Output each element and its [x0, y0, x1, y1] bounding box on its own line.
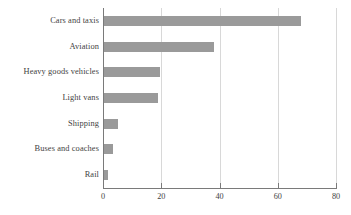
bar [103, 42, 214, 52]
x-tick-label: 60 [263, 192, 293, 202]
category-label: Rail [0, 170, 99, 180]
gridline [336, 8, 337, 188]
x-tick-label: 0 [88, 192, 118, 202]
x-tick-mark [278, 183, 279, 189]
bar [103, 119, 118, 129]
category-label: Cars and taxis [0, 16, 99, 26]
category-label: Light vans [0, 93, 99, 103]
bar [103, 67, 160, 77]
category-label: Heavy goods vehicles [0, 67, 99, 77]
gridline [278, 8, 279, 188]
gridline [161, 8, 162, 188]
x-tick-label: 80 [321, 192, 351, 202]
bar [103, 16, 301, 26]
x-tick-mark [336, 183, 337, 189]
y-axis-line [103, 8, 104, 188]
x-tick-mark [161, 183, 162, 189]
x-tick-mark [103, 183, 104, 189]
x-tick-label: 40 [205, 192, 235, 202]
gridline [220, 8, 221, 188]
category-label: Buses and coaches [0, 144, 99, 154]
bar [103, 144, 113, 154]
x-tick-mark [220, 183, 221, 189]
x-tick-label: 20 [146, 192, 176, 202]
bar-chart: Cars and taxisAviationHeavy goods vehicl… [0, 0, 351, 215]
category-label: Aviation [0, 42, 99, 52]
plot-area [103, 8, 336, 188]
bar [103, 93, 158, 103]
category-label: Shipping [0, 119, 99, 129]
y-axis-category-labels: Cars and taxisAviationHeavy goods vehicl… [0, 0, 99, 215]
